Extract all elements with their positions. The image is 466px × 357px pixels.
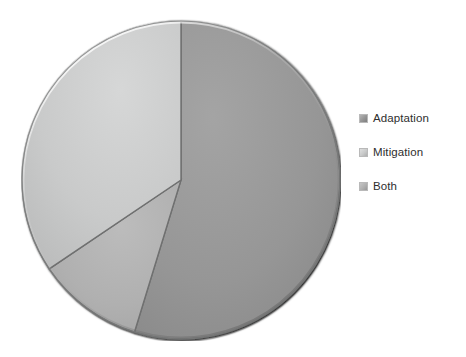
legend-label-both: Both [373, 180, 397, 193]
legend-swatch-both [359, 182, 368, 191]
legend-item-mitigation[interactable]: Mitigation [359, 146, 463, 159]
legend-label-mitigation: Mitigation [373, 146, 423, 159]
legend-item-both[interactable]: Both [359, 180, 463, 193]
legend-swatch-adaptation [359, 114, 368, 123]
chart-legend: Adaptation Mitigation Both [359, 112, 463, 193]
pie-chart-plot-area [21, 19, 341, 341]
legend-swatch-mitigation [359, 148, 368, 157]
pie-chart-figure: Adaptation Mitigation Both [0, 0, 466, 357]
legend-item-adaptation[interactable]: Adaptation [359, 112, 463, 125]
legend-label-adaptation: Adaptation [373, 112, 429, 125]
pie-chart-svg [21, 19, 341, 341]
